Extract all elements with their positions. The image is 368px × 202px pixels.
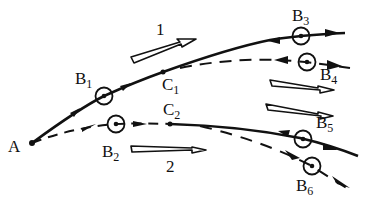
- wind-arrow-2: [131, 146, 206, 153]
- point-C2: [168, 122, 173, 127]
- lower-dashed-curve-2: [200, 126, 350, 190]
- point-C1: [161, 70, 166, 75]
- label-B3: B3: [292, 6, 309, 28]
- arrowhead-icon: [332, 176, 350, 188]
- label-B2: B2: [102, 142, 119, 164]
- trajectory-diagram: A B1 B2 B3 B4 B5 B6 C1 C2 1 2: [0, 0, 368, 202]
- label-B4: B4: [320, 65, 337, 87]
- body-B1: [96, 88, 113, 105]
- label-A: A: [8, 137, 21, 156]
- arrowhead-icon: [274, 56, 288, 64]
- arrowhead-icon: [82, 124, 96, 132]
- wind-arrow-1: [131, 39, 196, 63]
- arrowhead-icon: [133, 121, 147, 127]
- label-wind-1: 1: [156, 20, 165, 39]
- label-B1: B1: [75, 69, 92, 91]
- label-C2: C2: [163, 100, 180, 122]
- label-B6: B6: [296, 176, 313, 198]
- label-C1: C1: [162, 75, 179, 97]
- point-A: [29, 140, 35, 146]
- arrowhead-icon: [120, 83, 131, 91]
- lower-dashed-curve: [32, 124, 170, 144]
- body-B6: [304, 158, 321, 175]
- label-wind-2: 2: [166, 157, 175, 176]
- arrowhead-icon: [325, 29, 340, 37]
